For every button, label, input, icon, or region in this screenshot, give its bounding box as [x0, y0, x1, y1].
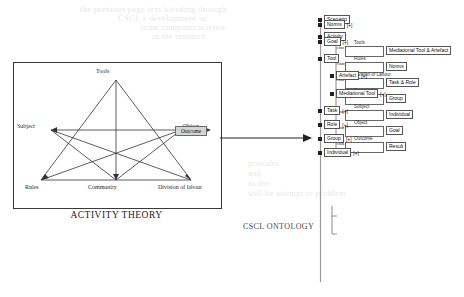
tree-bullet-icon — [318, 123, 322, 127]
cscl-ontology-tree: ScenarioActivityhasToolsMediational Tool… — [318, 10, 464, 295]
tree-target-box[interactable]: Goal — [386, 126, 403, 135]
tree-node-group[interactable]: Group[+] — [318, 134, 352, 143]
tree-node-label: Mediational Tool — [336, 89, 378, 98]
bleed-line-3: in the research — [152, 31, 206, 41]
tree-target-box[interactable]: Individual — [386, 110, 413, 119]
tree-slot-label: Outcome — [354, 136, 373, 141]
at-label-tools: Tools — [96, 68, 109, 74]
tree-bullet-icon — [318, 57, 322, 61]
tree-node-label: Individual — [324, 148, 351, 157]
tree-expander-toggle[interactable]: [+] — [342, 108, 348, 114]
tree-node-goal[interactable]: Goal[+] — [318, 37, 348, 46]
bleed-line-5: and — [248, 168, 261, 178]
bleed-line-6: as the — [248, 178, 269, 188]
at-outcome-box: Outcome — [175, 126, 207, 136]
tree-bullet-icon — [318, 40, 322, 44]
tree-node-task[interactable]: Task[+] — [318, 106, 348, 115]
tree-relation-label: has — [339, 46, 344, 50]
tree-bullet-icon — [318, 151, 322, 155]
bleed-line-4: provides — [248, 158, 280, 168]
tree-bullet-icon — [318, 137, 322, 141]
tree-slot-label: Object — [354, 120, 367, 125]
tree-node-mediational-tool[interactable]: Mediational Tool[+] — [330, 89, 386, 98]
tree-slot-label: Tools — [354, 40, 365, 45]
tree-node-label: Task — [324, 106, 340, 115]
tree-target-box[interactable]: Task & Role — [386, 78, 419, 87]
at-label-community: Community — [88, 184, 117, 190]
tree-expander-toggle[interactable]: [+] — [347, 22, 353, 28]
cscl-ontology-caption: CSCL ONTOLOGY — [243, 222, 314, 231]
tree-expander-toggle[interactable]: [+] — [353, 150, 359, 156]
tree-slot-label: Subject — [354, 104, 369, 109]
tree-node-role[interactable]: Role[+] — [318, 120, 348, 129]
activity-theory-caption: ACTIVITY THEORY — [13, 210, 220, 220]
connector-arrow — [220, 128, 316, 148]
at-label-rules: Rules — [25, 184, 39, 190]
tree-expander-toggle[interactable]: [+] — [380, 91, 386, 97]
tree-bullet-icon — [318, 109, 322, 113]
tree-expander-toggle[interactable]: [+] — [342, 122, 348, 128]
tree-node-artefact[interactable]: Artefact[+] — [330, 71, 367, 80]
tree-bullet-icon — [330, 92, 334, 96]
at-label-division: Division of labour — [158, 184, 202, 190]
tree-node-label: Role — [324, 120, 340, 129]
tree-bullet-icon — [330, 74, 334, 78]
at-label-subject: Subject — [17, 123, 35, 129]
tree-node-label: Norms — [324, 20, 345, 29]
tree-bullet-icon — [318, 23, 322, 27]
tree-slot-label: Rules — [354, 56, 366, 61]
tree-node-tool[interactable]: Tool — [318, 54, 339, 63]
tree-target-box[interactable]: Norms — [386, 62, 407, 71]
tree-node-label: Goal — [324, 37, 341, 46]
tree-node-individual[interactable]: Individual[+] — [318, 148, 359, 157]
tree-node-norms[interactable]: Norms[+] — [318, 20, 352, 29]
tree-node-label: Artefact — [336, 71, 359, 80]
tree-target-box[interactable]: Mediational Tool & Artefact — [386, 46, 451, 55]
tree-node-label: Group — [324, 134, 344, 143]
tree-expander-toggle[interactable]: [+] — [343, 39, 349, 45]
tree-expander-toggle[interactable]: [+] — [346, 136, 352, 142]
tree-target-box[interactable]: Result — [386, 142, 406, 151]
tree-target-box[interactable]: Group — [386, 94, 406, 103]
tree-expander-toggle[interactable]: [+] — [361, 73, 367, 79]
tree-node-label: Tool — [324, 54, 339, 63]
